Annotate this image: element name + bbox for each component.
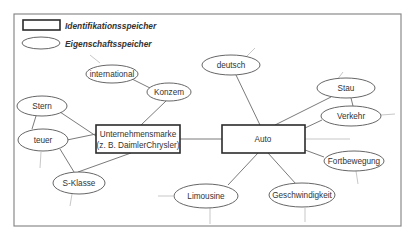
node-label: Verkehr	[337, 112, 365, 121]
node-label: S-Klasse	[63, 179, 96, 188]
node-auto[interactable]: Auto	[222, 125, 305, 153]
node-stern[interactable]: Stern	[17, 96, 67, 116]
node-verkehr[interactable]: Verkehr	[321, 106, 381, 126]
node-deutsch[interactable]: deutsch	[202, 55, 260, 75]
legend-rectangle-icon	[23, 20, 60, 30]
node-label: Stern	[32, 102, 52, 111]
node-label: international	[90, 70, 135, 79]
node-fortbewegung[interactable]: Fortbewegung	[324, 151, 384, 171]
node-teuer[interactable]: teuer	[18, 129, 68, 151]
node-label: Konzem	[154, 88, 184, 97]
legend-property-label: Eigenschaftsspeicher	[65, 39, 152, 49]
node-label: Limousine	[187, 192, 225, 201]
node-limousine[interactable]: Limousine	[174, 184, 238, 208]
node-international[interactable]: international	[86, 65, 138, 83]
node-konzem[interactable]: Konzem	[147, 83, 191, 101]
node-label: Fortbewegung	[328, 157, 381, 166]
node-stau[interactable]: Stau	[317, 78, 375, 98]
node-label-line1: Unternehmensmarke	[100, 130, 177, 139]
semantic-network-diagram: Identifikationsspeicher Eigenschaftsspei…	[0, 0, 416, 238]
node-sklasse[interactable]: S-Klasse	[53, 172, 105, 194]
node-label: Geschwindigkeit	[272, 191, 332, 200]
legend-identification-label: Identifikationsspeicher	[65, 21, 157, 31]
node-unternehmensmarke[interactable]: Unternehmensmarke (z. B. DaimlerChrysler…	[96, 125, 180, 153]
legend-ellipse-icon	[22, 37, 60, 49]
node-geschwindigkeit[interactable]: Geschwindigkeit	[269, 183, 335, 207]
node-label-line2: (z. B. DaimlerChrysler)	[97, 141, 180, 150]
node-label: deutsch	[217, 61, 246, 70]
node-label: Stau	[338, 84, 355, 93]
node-label: teuer	[34, 136, 53, 145]
node-label: Auto	[255, 135, 272, 144]
